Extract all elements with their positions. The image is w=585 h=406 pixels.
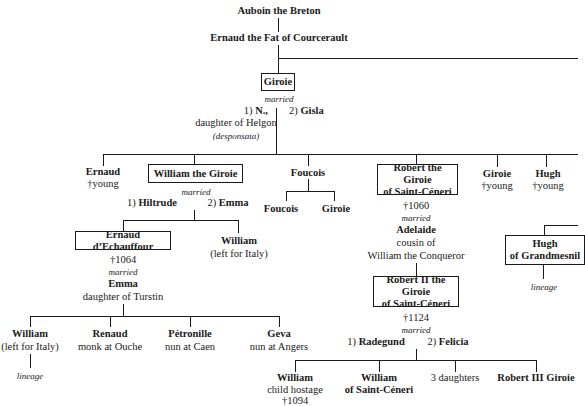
spouse-adelaide: Adelaide [396, 224, 436, 236]
connector [278, 58, 578, 59]
connector [103, 154, 104, 166]
spouse-note: daughter of Turstin [83, 291, 164, 303]
connector [546, 154, 547, 167]
connector [278, 18, 279, 32]
spouse-felicia: 2) Felicia [427, 336, 468, 348]
person-giroie: Giroie [261, 73, 295, 91]
spouse-gisla: 2) Gisla [289, 105, 324, 117]
connector [278, 45, 279, 74]
spouse-n: 1) N., [244, 105, 268, 117]
connector [279, 316, 280, 327]
death-note: †young [87, 178, 119, 190]
note: nun at Angers [250, 341, 308, 353]
note: (left for Italy) [1, 341, 59, 353]
person-william-saint-ceneri: William [361, 372, 397, 384]
person-robert-ii: Robert II the Giroieof Saint-Céneri [373, 276, 459, 307]
connector [238, 220, 239, 233]
person-hugh-young: Hugh [535, 168, 560, 180]
connector [295, 360, 537, 361]
connector [544, 225, 545, 235]
connector [286, 191, 287, 201]
connector [30, 316, 31, 327]
person-geva: Geva [267, 328, 290, 340]
lineage-label: lineage [17, 370, 44, 382]
connector [543, 265, 544, 279]
note: (left for Italy) [210, 248, 268, 260]
connector [110, 316, 111, 327]
person-william: William [12, 328, 48, 340]
connector [536, 360, 537, 372]
connector [286, 191, 335, 192]
connector [497, 154, 498, 167]
note: nun at Caen [165, 341, 215, 353]
connector [544, 225, 578, 226]
person-william-hostage: William [277, 372, 313, 384]
spouse-emma-turstin: Emma [108, 278, 138, 290]
married-label: married [265, 93, 294, 105]
person-william-saint-ceneri-line2: of Saint-Céneri [345, 384, 414, 396]
connector [103, 154, 578, 155]
connector [276, 108, 277, 155]
death-note: †1124 [403, 312, 429, 324]
spouse-n-note2: (desponsata) [213, 130, 260, 142]
married-label: married [402, 324, 431, 336]
connector [308, 154, 309, 166]
person-renaud: Renaud [92, 328, 127, 340]
connector [30, 316, 280, 317]
person-hugh-of-grandmesnil: Hughof Grandmesnil [505, 235, 585, 265]
connector [334, 191, 335, 201]
death-note: †1064 [110, 254, 136, 266]
connector [455, 360, 456, 372]
connector [190, 316, 191, 327]
person-foucois-child: Foucois [264, 203, 298, 215]
person-petronille: Pétronille [168, 328, 212, 340]
spouse-note: William the Conqueror [368, 250, 465, 262]
person-robert-the-giroie: Robert the Giroieof Saint-Céneri [377, 164, 458, 195]
connector [308, 179, 309, 191]
person-giroie-child: Giroie [322, 203, 350, 215]
death-note: †1060 [403, 200, 429, 212]
person-ernaud-the-fat: Ernaud the Fat of Courcerault [210, 32, 347, 44]
connector [30, 354, 31, 368]
connector [379, 360, 380, 372]
person-auboin: Auboin the Breton [237, 5, 320, 17]
lineage-label: lineage [531, 281, 558, 293]
death-note: †1094 [282, 395, 308, 406]
death-note: †young [481, 180, 513, 192]
married-label: married [109, 266, 138, 278]
spouse-n-note: daughter of Helgon [195, 117, 277, 129]
person-robert-iii: Robert III Giroie [497, 372, 574, 384]
person-ernaud-dechauffour: Ernaud d’Echauffour [75, 231, 171, 250]
daughters-label: 3 daughters [431, 372, 480, 384]
spouse-radegund: 1) Radegund [347, 336, 404, 348]
married-label: married [402, 212, 431, 224]
note: monk at Ouche [78, 341, 142, 353]
spouse-note: cousin of [397, 237, 436, 249]
person-william-the-giroie: William the Giroie [148, 164, 243, 183]
person-foucois: Foucois [291, 167, 325, 179]
person-giroie-young: Giroie [483, 168, 511, 180]
spouse-hiltrude: 1) Hiltrude [127, 197, 177, 209]
person-william-italy: William [221, 235, 257, 247]
spouse-emma: 2) Emma [207, 197, 248, 209]
married-label: married [182, 186, 211, 198]
person-ernaud: Ernaud [86, 166, 120, 178]
death-note: †young [532, 180, 564, 192]
connector [123, 220, 239, 221]
connector [295, 360, 296, 372]
connector [194, 154, 195, 164]
